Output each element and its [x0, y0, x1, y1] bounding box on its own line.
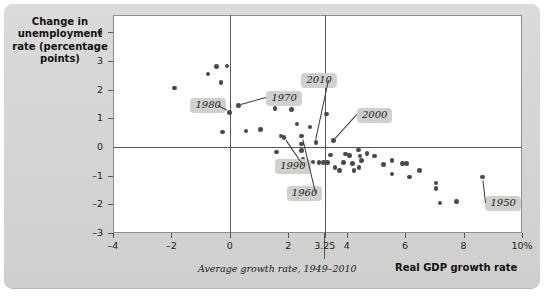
data-point	[381, 162, 386, 167]
y-tick	[108, 118, 113, 119]
data-point	[258, 127, 263, 132]
data-point	[350, 161, 355, 166]
x-tick-label: 10%	[500, 240, 544, 251]
data-point	[219, 80, 224, 85]
annotation-label-2000: 2000	[357, 108, 392, 123]
data-point	[273, 106, 278, 111]
data-point	[227, 110, 232, 115]
annotation-label-2010: 2010	[301, 73, 336, 88]
data-point	[357, 165, 362, 170]
reference-line-zero-unemployment-change	[113, 147, 522, 148]
x-tick-label: –4	[91, 240, 135, 251]
average-growth-note: Average growth rate, 1949–2010	[198, 263, 357, 274]
annotation-label-1960: 1960	[287, 186, 322, 201]
x-tick	[113, 233, 114, 238]
data-point	[172, 86, 177, 91]
x-tick	[288, 233, 289, 238]
x-tick	[325, 233, 326, 238]
data-point	[220, 130, 225, 135]
data-point	[359, 158, 364, 163]
annotation-label-1970: 1970	[266, 91, 301, 106]
x-tick-label: 8	[442, 240, 486, 251]
y-tick-label: –1	[0, 170, 103, 181]
y-tick	[108, 61, 113, 62]
x-tick	[171, 233, 172, 238]
x-axis-title: Real GDP growth rate	[395, 262, 517, 273]
x-tick-label: 4	[325, 240, 369, 251]
data-point	[434, 186, 439, 191]
data-point	[328, 153, 333, 158]
x-tick	[522, 233, 523, 238]
x-tick-label: 0	[208, 240, 252, 251]
y-tick	[108, 32, 113, 33]
data-point	[324, 112, 329, 117]
y-tick	[108, 90, 113, 91]
x-tick-label: –2	[149, 240, 193, 251]
data-point	[372, 154, 377, 159]
annotation-label-1950: 1950	[485, 196, 520, 211]
data-point	[407, 175, 412, 180]
data-point	[417, 168, 422, 173]
data-point	[289, 107, 294, 112]
data-point	[356, 148, 361, 153]
y-tick	[108, 176, 113, 177]
y-tick-label: 0	[0, 141, 103, 152]
x-tick	[464, 233, 465, 238]
data-point	[347, 153, 352, 158]
x-tick-label: 6	[383, 240, 427, 251]
data-point	[352, 168, 357, 173]
data-point	[365, 151, 370, 156]
y-tick	[108, 204, 113, 205]
x-tick	[230, 233, 231, 238]
data-point	[337, 168, 342, 173]
y-tick-label: 4	[0, 26, 103, 37]
reference-line-zero-growth	[230, 15, 231, 233]
data-point	[404, 161, 409, 166]
y-tick-label: 3	[0, 55, 103, 66]
figure-root: Change in unemployment rate (percentage …	[0, 0, 549, 296]
y-tick-label: 2	[0, 84, 103, 95]
y-tick-label: –2	[0, 198, 103, 209]
data-point	[325, 160, 330, 165]
data-point	[299, 148, 304, 153]
y-tick-label: –3	[0, 227, 103, 238]
data-point	[434, 181, 439, 186]
reference-line-average-growth-rate	[325, 15, 326, 233]
data-point	[214, 64, 219, 69]
data-point	[454, 199, 459, 204]
data-point	[314, 140, 319, 145]
data-point	[299, 134, 304, 139]
x-tick	[405, 233, 406, 238]
x-tick	[347, 233, 348, 238]
y-tick-label: 1	[0, 112, 103, 123]
annotation-label-1990: 1990	[275, 159, 310, 174]
